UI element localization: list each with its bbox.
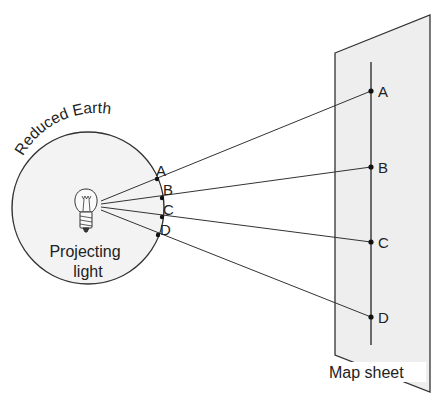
sphere-label-c: C bbox=[163, 201, 174, 218]
projecting-light-label-line1: Projecting bbox=[49, 243, 120, 260]
sphere-label-d: D bbox=[160, 221, 171, 238]
map-label-b: B bbox=[378, 159, 388, 176]
projection-diagram: Reduced Earth A B C D A B bbox=[0, 0, 437, 404]
map-sheet bbox=[335, 15, 430, 392]
map-label-c: C bbox=[378, 234, 389, 251]
map-label-d: D bbox=[378, 309, 389, 326]
map-label-a: A bbox=[378, 83, 388, 100]
sphere-label-a: A bbox=[156, 162, 166, 179]
sphere-label-b: B bbox=[163, 181, 173, 198]
projecting-light-label-line2: light bbox=[73, 263, 103, 280]
map-sheet-label: Map sheet bbox=[329, 364, 404, 381]
